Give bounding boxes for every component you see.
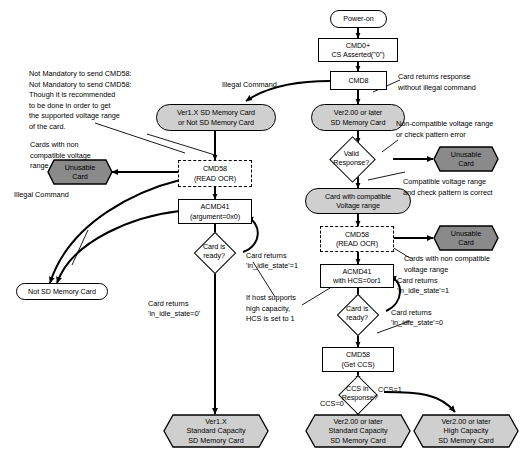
node-acmd41-right: ACMD41 with HCS=0or1: [320, 264, 394, 288]
node-not-sd-memory-card: Not SD Memory Card: [16, 283, 108, 300]
node-cmd58-read-ocr-left: CMD58 (READ OCR): [178, 160, 252, 187]
node-card-is-ready-left: Card is ready?: [194, 232, 236, 274]
node-ver2-card: Ver2.00 or later SD Memory Card: [311, 104, 405, 131]
node-label: CCS in Response?: [341, 385, 372, 402]
node-acmd41-left: ACMD41 (argument=0x0): [178, 199, 252, 224]
node-label: Power-on: [331, 14, 386, 23]
node-label: Ver1.X Standard Capacity SD Memory Card: [186, 417, 245, 445]
node-label: Unusable Card: [451, 229, 481, 247]
node-power-on: Power-on: [330, 10, 387, 28]
node-label: Valid Response?: [333, 150, 369, 167]
node-valid-response: Valid Response?: [329, 136, 376, 183]
node-label: Card is ready?: [342, 305, 373, 322]
node-label: Card is ready?: [199, 243, 230, 260]
flowchart-canvas: Power-on CMD0+ CS Asserted("0") CMD8 Ver…: [0, 0, 524, 454]
node-label: CMD58 (Get CCS): [323, 350, 393, 368]
node-cmd8: CMD8: [330, 71, 387, 90]
note-cards-non-compatible-right: Cards with non compatible voltage range: [404, 254, 522, 275]
node-ver1x-standard-capacity: Ver1.X Standard Capacity SD Memory Card: [163, 414, 269, 448]
node-card-is-ready-right: Card is ready?: [337, 294, 379, 336]
edge-label-illegal-command-top: Illegal Command: [222, 80, 277, 90]
node-label: Ver2.00 or later SD Memory Card: [312, 108, 404, 126]
edge-label-card-returns-idle0-left: Card returns 'in_idle_state=0': [148, 299, 228, 319]
node-unusable-card-3: Unusable Card: [433, 225, 499, 251]
edge-label-ccs-one: CCS=1: [378, 385, 402, 395]
node-label: Card with compatible Voltage range: [306, 192, 410, 210]
node-ccs-in-response: CCS in Response?: [338, 375, 378, 415]
node-cmd0: CMD0+ CS Asserted("0"): [318, 38, 398, 62]
node-label: CMD58 (READ OCR): [321, 230, 393, 248]
note-cmd58-not-mandatory: Not Mandatory to send CMD58: Not Mandato…: [29, 69, 179, 132]
node-label: Ver2.00 or later Standard Capacity SD Me…: [328, 417, 387, 445]
edge-label-card-returns-idle0-right: Card returns 'in_idle_state'=0: [391, 308, 469, 328]
node-label: ACMD41 with HCS=0or1: [321, 267, 393, 285]
note-non-compatible-or-pattern-error: Non-compatible voltage range or check pa…: [396, 119, 524, 140]
edge-label-card-returns-idle1-left: Card returns 'in_idle_state'=1: [246, 251, 320, 271]
note-card-returns-response: Card returns response without illegal co…: [398, 72, 522, 93]
node-label: CMD0+ CS Asserted("0"): [319, 41, 397, 59]
node-ver2-high-capacity: Ver2.00 or later High Capacity SD Memory…: [413, 414, 519, 448]
edge-label-ccs-zero: CCS=0: [320, 399, 344, 409]
node-label: Unusable Card: [451, 150, 481, 168]
node-ver2-standard-capacity: Ver2.00 or later Standard Capacity SD Me…: [305, 414, 411, 448]
note-compatible-and-pattern-correct: Compatible voltage range and check patte…: [403, 177, 524, 198]
node-label: ACMD41 (argument=0x0): [179, 202, 251, 220]
node-card-compatible-voltage: Card with compatible Voltage range: [305, 188, 411, 214]
note-cards-non-compatible-left: Cards with non compatible voltage range: [30, 140, 120, 172]
node-label: CMD8: [331, 76, 386, 85]
node-cmd58-get-ccs: CMD58 (Get CCS): [322, 347, 394, 372]
node-unusable-card-1: Unusable Card: [433, 146, 499, 172]
edge-label-card-returns-idle1-right: Card returns 'in_idle_state'=1: [397, 276, 475, 296]
node-label: Not SD Memory Card: [17, 287, 107, 296]
note-host-supports-high-capacity: If host supports high capacity, HCS is s…: [246, 293, 321, 325]
node-label: CMD58 (READ OCR): [179, 164, 251, 182]
node-label: Ver2.00 or later High Capacity SD Memory…: [438, 417, 494, 445]
node-cmd58-read-ocr-right: CMD58 (READ OCR): [320, 226, 394, 252]
edge-label-illegal-command-left: Illegal Command: [14, 190, 69, 200]
